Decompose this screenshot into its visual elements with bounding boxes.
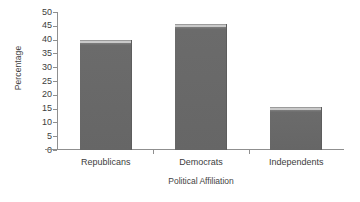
bar-democrats [175, 24, 227, 150]
y-tick-mark [53, 136, 57, 137]
y-tick-label: 25 [28, 77, 52, 86]
y-tick-label: 30 [28, 63, 52, 72]
y-tick-mark [53, 109, 57, 110]
x-axis-title: Political Affiliation [58, 176, 344, 186]
y-tick-mark [53, 12, 57, 13]
bar-chart-figure: Percentage 50 45 40 35 30 25 20 15 10 5 … [0, 0, 360, 202]
bar-republicans [80, 40, 132, 150]
bar-independents [270, 107, 322, 150]
x-tick-mark [249, 150, 250, 154]
y-tick-label: 50 [28, 8, 52, 17]
y-tick-mark [53, 150, 57, 151]
y-tick-mark [53, 81, 57, 82]
x-tick-label-democrats: Democrats [153, 157, 248, 168]
y-tick-mark [53, 95, 57, 96]
y-tick-label: 35 [28, 49, 52, 58]
y-tick-label: 0 [28, 146, 52, 155]
plot-area [58, 12, 344, 150]
y-tick-label: 45 [28, 21, 52, 30]
y-tick-label: 15 [28, 104, 52, 113]
y-tick-label: 40 [28, 35, 52, 44]
y-tick-mark [53, 67, 57, 68]
y-tick-mark [53, 40, 57, 41]
x-tick-label-independents: Independents [249, 157, 344, 168]
y-axis-title: Percentage [13, 28, 23, 108]
x-tick-mark [153, 150, 154, 154]
y-tick-label: 20 [28, 90, 52, 99]
y-tick-label: 10 [28, 118, 52, 127]
y-tick-mark [53, 53, 57, 54]
y-tick-label: 5 [28, 132, 52, 141]
y-axis-tick-labels: 50 45 40 35 30 25 20 15 10 5 0 [28, 8, 52, 149]
y-tick-mark [53, 122, 57, 123]
x-tick-label-republicans: Republicans [58, 157, 153, 168]
y-tick-mark [53, 26, 57, 27]
